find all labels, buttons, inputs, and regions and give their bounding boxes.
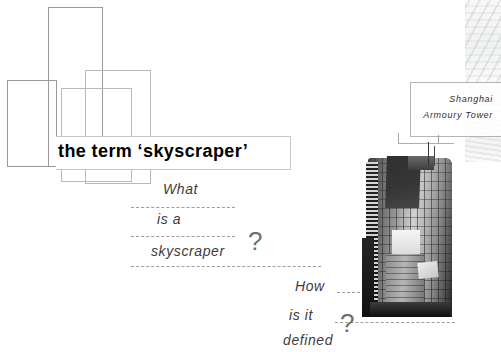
photo-caption-line-1: Shanghai	[449, 94, 493, 104]
question-2-word-1: How	[295, 278, 325, 294]
question-2-rule-1	[337, 292, 365, 293]
question-1-rule-3	[131, 266, 321, 267]
skyscraper-photo	[362, 142, 460, 317]
page-title: the term ‘skyscraper’	[58, 141, 248, 162]
question-1-mark: ?	[248, 228, 262, 254]
question-2-mark: ?	[340, 310, 354, 336]
photo-tower-base	[370, 302, 450, 317]
question-1-word-3: skyscraper	[151, 243, 225, 259]
slide-canvas: the term ‘skyscraper’ What is a skyscrap…	[0, 0, 501, 352]
photo-tower-crown	[408, 156, 434, 170]
photo-tower-notch	[417, 261, 439, 279]
decor-rectangle-left-wide	[7, 80, 57, 167]
photo-tower-mast-primary	[428, 142, 429, 166]
question-1-word-1: What	[163, 181, 198, 197]
photo-tower-highlight	[392, 230, 420, 256]
question-2-word-3: defined	[283, 332, 333, 348]
question-1-rule-1	[131, 207, 235, 208]
question-1-rule-2	[131, 236, 235, 237]
question-1-word-2: is a	[157, 211, 181, 227]
photo-caption-line-2: Armoury Tower	[423, 110, 493, 120]
edge-texture-strip-top	[465, 0, 501, 84]
photo-tower-mast-secondary	[434, 146, 435, 166]
question-2-word-2: is it	[289, 307, 313, 323]
